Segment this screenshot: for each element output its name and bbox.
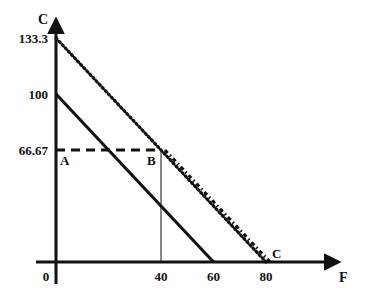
y-tick-label: 100: [29, 87, 49, 102]
x-axis-label: F: [339, 270, 348, 285]
point-label-c: C: [272, 246, 281, 261]
series-layer: [56, 38, 270, 262]
x-tick-label: 0: [43, 269, 50, 284]
y-tick-label: 133.3: [19, 31, 49, 46]
x-tick-label: 40: [155, 269, 168, 284]
point-label-b: B: [147, 153, 156, 168]
y-axis-label: C: [38, 12, 48, 27]
budget-constraint-chart: C F 0406080133.310066.67 ABC: [0, 0, 365, 298]
series-dash-dot-line: [165, 150, 270, 262]
point-labels: ABC: [60, 153, 281, 261]
y-tick-label: 66.67: [19, 143, 49, 158]
point-label-a: A: [60, 153, 70, 168]
x-tick-label: 80: [260, 269, 273, 284]
x-tick-label: 60: [207, 269, 220, 284]
